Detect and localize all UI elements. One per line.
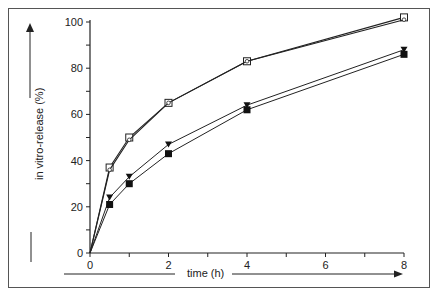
x-tick-label: 0 [87,259,93,271]
y-tick-label: 0 [77,247,83,259]
filled-square-marker [244,106,251,113]
x-axis-title: time (h) [187,267,224,279]
filled-square-marker [126,180,133,187]
x-arrow-head-icon [394,271,403,278]
x-tick-label: 4 [244,259,250,271]
filled-square-marker [165,150,172,157]
y-tick-label: 100 [65,16,83,28]
open-circle-marker [167,101,171,105]
series-line [90,17,404,253]
series-line [90,54,404,253]
y-arrow-head-icon [26,23,34,32]
y-tick-label: 60 [71,108,83,120]
filled-square-marker [106,201,113,208]
axes: 02040608010002468 [26,16,407,278]
x-tick-label: 6 [322,259,328,271]
x-tick-label: 8 [401,259,407,271]
open-circle-marker [127,138,131,142]
x-tick-label: 2 [165,259,171,271]
open-circle-marker [108,168,112,172]
y-tick-label: 80 [71,62,83,74]
series-line [90,20,404,253]
filled-triangle-marker [106,195,113,201]
release-chart: 02040608010002468 in vitro-release (%) t… [0,0,438,298]
open-circle-marker [245,59,249,63]
y-axis-title: in vitro-release (%) [33,88,45,180]
open-circle-marker [402,18,406,22]
filled-square-marker [401,51,408,58]
series-line [90,50,404,253]
y-tick-label: 40 [71,155,83,167]
data-series [90,14,408,253]
y-tick-label: 20 [71,201,83,213]
